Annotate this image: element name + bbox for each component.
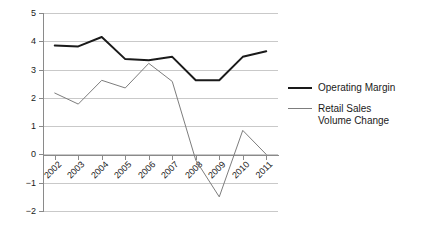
y-tick-label: 5 (6, 9, 36, 18)
y-tick-label: −1 (6, 179, 36, 188)
y-tick-label: 0 (6, 150, 36, 159)
legend-entry-operating-margin: Operating Margin (288, 82, 422, 94)
y-tick-label: −2 (6, 207, 36, 216)
y-tick-label: 2 (6, 94, 36, 103)
gridline-neg2 (43, 211, 278, 212)
y-tick-label: 4 (6, 37, 36, 46)
legend-entry-retail-sales-volume-change: Retail Sales Volume Change (288, 103, 422, 127)
legend-line-swatch-operating-margin (288, 87, 312, 89)
legend-line-swatch-retail-sales-volume-change (288, 108, 312, 109)
chart-legend: Operating Margin Retail Sales Volume Cha… (288, 82, 422, 136)
y-tick-label: 3 (6, 66, 36, 75)
legend-label-operating-margin: Operating Margin (318, 82, 395, 94)
y-tick (39, 211, 44, 212)
legend-label-retail-sales-volume-change: Retail Sales Volume Change (318, 103, 389, 127)
line-chart: 543210−1−2 20022003200420052006200720082… (0, 0, 425, 233)
series-lines (43, 13, 278, 211)
y-axis-tick-labels: 543210−1−2 (0, 0, 36, 233)
series-line-retail-sales-volume-change (55, 63, 267, 197)
y-tick-label: 1 (6, 122, 36, 131)
series-line-operating-margin (55, 37, 267, 80)
